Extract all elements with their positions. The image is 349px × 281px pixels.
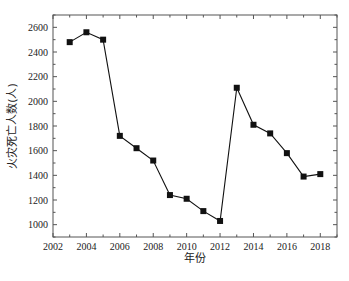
data-point-marker: [217, 218, 223, 224]
data-series: [67, 29, 324, 224]
data-point-marker: [184, 196, 190, 202]
data-point-marker: [167, 192, 173, 198]
data-point-marker: [317, 171, 323, 177]
data-point-marker: [250, 122, 256, 128]
data-point-marker: [83, 29, 89, 35]
y-tick-label: 1000: [28, 219, 48, 230]
x-tick-label: 2010: [177, 241, 197, 252]
x-tick-label: 2016: [277, 241, 297, 252]
data-point-marker: [134, 145, 140, 151]
y-tick-label: 1200: [28, 195, 48, 206]
x-tick-label: 2004: [76, 241, 96, 252]
x-axis-title: 年份: [184, 251, 206, 265]
data-point-marker: [200, 208, 206, 214]
x-tick-label: 2012: [210, 241, 230, 252]
plot-frame: [53, 15, 337, 237]
data-point-marker: [284, 150, 290, 156]
y-tick-label: 2000: [28, 96, 48, 107]
x-tick-label: 2014: [243, 241, 263, 252]
y-axis-ticks: 100012001400160018002000220024002600: [28, 15, 337, 237]
x-tick-label: 2002: [43, 241, 63, 252]
y-tick-label: 2400: [28, 47, 48, 58]
data-point-marker: [117, 133, 123, 139]
x-axis-ticks: 200220042006200820102012201420162018: [43, 15, 337, 252]
y-tick-label: 1800: [28, 121, 48, 132]
x-tick-label: 2018: [310, 241, 330, 252]
data-point-marker: [301, 174, 307, 180]
data-point-marker: [267, 130, 273, 136]
line-chart: 200220042006200820102012201420162018 100…: [0, 0, 349, 281]
x-tick-label: 2006: [110, 241, 130, 252]
y-tick-label: 2600: [28, 22, 48, 33]
data-point-marker: [150, 158, 156, 164]
plot-border: [53, 15, 337, 237]
data-point-marker: [67, 39, 73, 45]
y-tick-label: 2200: [28, 71, 48, 82]
y-axis-title: 火灾死亡人数(人): [5, 83, 19, 169]
y-tick-label: 1400: [28, 170, 48, 181]
data-point-marker: [100, 37, 106, 43]
y-tick-label: 1600: [28, 145, 48, 156]
data-point-marker: [234, 85, 240, 91]
series-line: [70, 32, 321, 221]
x-tick-label: 2008: [143, 241, 163, 252]
